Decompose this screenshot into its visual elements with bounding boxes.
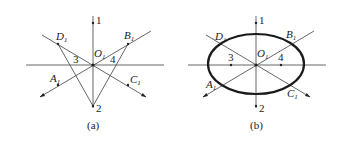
center-point xyxy=(91,63,94,66)
label-b1: B1 xyxy=(124,29,134,43)
caption-b: (b) xyxy=(250,119,263,132)
point-c1 xyxy=(127,84,129,86)
point-4 xyxy=(280,64,282,66)
label-a1: A1 xyxy=(49,72,60,86)
label-b1: B1 xyxy=(286,28,296,42)
point-2 xyxy=(255,105,257,107)
label-o1: O1 xyxy=(94,47,105,61)
point-3 xyxy=(230,64,232,66)
point-d1 xyxy=(57,43,59,45)
diagram-canvas: 1 2 3 4 O1 D1 B1 A1 C1 (a) 1 2 3 4 O1 D1… xyxy=(0,0,339,145)
figure-a: 1 2 3 4 O1 D1 B1 A1 C1 (a) xyxy=(26,14,164,132)
label-4: 4 xyxy=(110,53,116,65)
label-1: 1 xyxy=(96,14,102,26)
label-2: 2 xyxy=(259,102,265,114)
label-o1: O1 xyxy=(257,47,268,61)
point-2 xyxy=(92,105,94,107)
point-b1 xyxy=(127,43,129,45)
label-3: 3 xyxy=(73,53,79,65)
caption-a: (a) xyxy=(87,119,100,132)
center-point xyxy=(254,63,257,66)
point-1 xyxy=(92,22,94,24)
label-d1: D1 xyxy=(214,30,226,44)
label-3: 3 xyxy=(228,51,234,63)
label-c1: C1 xyxy=(130,73,141,87)
figure-b: 1 2 3 4 O1 D1 B1 A1 C1 (b) xyxy=(188,14,326,132)
label-1: 1 xyxy=(259,14,265,26)
label-d1: D1 xyxy=(55,30,67,44)
label-4: 4 xyxy=(278,51,284,63)
label-2: 2 xyxy=(96,102,102,114)
point-1 xyxy=(255,22,257,24)
